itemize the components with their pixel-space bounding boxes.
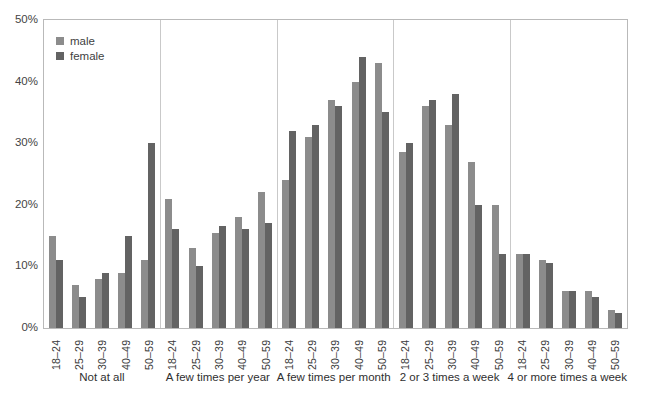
bar-pair [230, 20, 253, 328]
bar-pair [113, 20, 136, 328]
bar-female[interactable] [219, 226, 226, 328]
bar-male[interactable] [49, 236, 56, 328]
bar-pair [370, 20, 393, 328]
x-axis-group-label: A few times per month [276, 371, 392, 387]
x-axis-tick-label: 50–59 [609, 330, 621, 370]
x-tick-cell: 25–29 [67, 330, 90, 370]
bar-female[interactable] [102, 273, 109, 328]
bar-pair [394, 20, 417, 328]
x-axis-group-label: A few times per year [160, 371, 276, 387]
x-axis-tick-label: 30–39 [329, 330, 341, 370]
bar-female[interactable] [148, 143, 155, 328]
bar-pair [301, 20, 324, 328]
bar-group [393, 20, 510, 328]
bar-female[interactable] [615, 313, 622, 328]
bar-female[interactable] [196, 266, 203, 328]
bar-pair [253, 20, 276, 328]
legend-swatch-female [56, 52, 64, 60]
y-axis-tick: 10% [15, 259, 38, 271]
bar-female[interactable] [289, 131, 296, 328]
bar-group [510, 20, 627, 328]
bar-pair [487, 20, 510, 328]
x-axis-tick-label: 25–29 [190, 330, 202, 370]
bar-male[interactable] [258, 192, 265, 328]
bar-male[interactable] [189, 248, 196, 328]
x-axis-tick-label: 50–59 [260, 330, 272, 370]
bar-pair [67, 20, 90, 328]
bar-female[interactable] [546, 263, 553, 328]
x-axis-tick-label: 30–39 [446, 330, 458, 370]
bar-female[interactable] [79, 297, 86, 328]
bar-pair [44, 20, 67, 328]
bar-female[interactable] [265, 223, 272, 328]
x-tick-cell: 25–29 [184, 330, 207, 370]
x-axis-tick-label: 25–29 [423, 330, 435, 370]
bar-female[interactable] [125, 236, 132, 328]
bar-male[interactable] [165, 199, 172, 328]
bar-female[interactable] [242, 229, 249, 328]
bar-male[interactable] [562, 291, 569, 328]
bar-male[interactable] [422, 106, 429, 328]
bar-pair [278, 20, 301, 328]
x-axis-tick-label: 40–49 [120, 330, 132, 370]
bar-male[interactable] [235, 217, 242, 328]
bar-male[interactable] [468, 162, 475, 328]
x-tick-cell: 40–49 [231, 330, 254, 370]
x-tick-group: 18–2425–2930–3940–4950–59 [277, 330, 394, 370]
bar-male[interactable] [305, 137, 312, 328]
x-tick-cell: 40–49 [464, 330, 487, 370]
bar-female[interactable] [592, 297, 599, 328]
x-tick-cell: 40–49 [580, 330, 603, 370]
bar-male[interactable] [516, 254, 523, 328]
bar-male[interactable] [352, 82, 359, 328]
bar-female[interactable] [382, 112, 389, 328]
x-axis-tick-label: 25–29 [73, 330, 85, 370]
bar-female[interactable] [429, 100, 436, 328]
bar-female[interactable] [312, 125, 319, 328]
x-axis-group-label: 2 or 3 times a week [392, 371, 508, 387]
x-axis-tick-label: 40–49 [469, 330, 481, 370]
bar-female[interactable] [56, 260, 63, 328]
bar-female[interactable] [335, 106, 342, 328]
bar-male[interactable] [608, 310, 615, 328]
x-tick-group: 18–2425–2930–3940–4950–59 [161, 330, 278, 370]
bar-group [277, 20, 394, 328]
bar-male[interactable] [539, 260, 546, 328]
bar-pair [207, 20, 230, 328]
bar-female[interactable] [475, 205, 482, 328]
bar-group [44, 20, 160, 328]
bar-female[interactable] [359, 57, 366, 328]
bar-male[interactable] [399, 152, 406, 328]
legend-item-male[interactable]: male [56, 33, 105, 48]
bar-groups [44, 20, 627, 328]
bar-pair [184, 20, 207, 328]
bar-pair [324, 20, 347, 328]
x-axis-tick-label: 40–49 [586, 330, 598, 370]
y-axis-tick: 50% [15, 13, 38, 25]
legend-item-female[interactable]: female [56, 48, 105, 63]
bar-male[interactable] [141, 260, 148, 328]
bar-female[interactable] [406, 143, 413, 328]
bar-pair [511, 20, 534, 328]
bar-female[interactable] [569, 291, 576, 328]
bar-male[interactable] [72, 285, 79, 328]
bar-male[interactable] [118, 273, 125, 328]
x-tick-cell: 50–59 [137, 330, 160, 370]
x-axis-tick-label: 50–59 [143, 330, 155, 370]
bar-female[interactable] [523, 254, 530, 328]
legend: malefemale [56, 33, 105, 63]
bar-male[interactable] [445, 125, 452, 328]
bar-male[interactable] [375, 63, 382, 328]
y-axis-tick: 0% [21, 321, 38, 333]
bar-male[interactable] [212, 233, 219, 328]
bar-male[interactable] [282, 180, 289, 328]
bar-female[interactable] [499, 254, 506, 328]
bar-male[interactable] [492, 205, 499, 328]
bar-female[interactable] [452, 94, 459, 328]
x-axis-group-label: 4 or more times a week [508, 371, 628, 387]
bar-male[interactable] [95, 279, 102, 328]
x-axis-tick-label: 30–39 [563, 330, 575, 370]
bar-male[interactable] [328, 100, 335, 328]
bar-female[interactable] [172, 229, 179, 328]
bar-male[interactable] [585, 291, 592, 328]
